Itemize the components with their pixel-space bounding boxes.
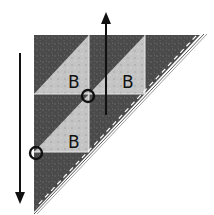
piece-label-b-3: B — [68, 132, 80, 152]
piece-label-b-1: B — [68, 72, 80, 92]
quilt-diagram: B B B — [0, 0, 214, 215]
down-arrow-icon — [15, 53, 25, 204]
piece-label-b-2: B — [122, 72, 134, 92]
dark-fabric-triangle — [34, 35, 200, 212]
